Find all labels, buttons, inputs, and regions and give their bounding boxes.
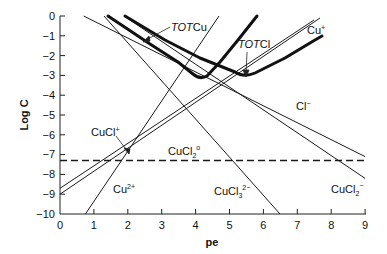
label-cucl2-minus: CuCl2− [331, 182, 363, 197]
label-totcu: TOTCu [171, 21, 207, 33]
annotation-arrows [116, 27, 249, 154]
label-cu-plus: Cu+ [307, 24, 325, 36]
y-tick-label: −7 [42, 148, 55, 160]
x-tick-label: 3 [159, 219, 165, 231]
y-tick-label: −9 [42, 188, 55, 200]
x-tick-label: 0 [57, 219, 63, 231]
y-tick-labels: 0 −1 −2 −3 −4 −5 −6 −7 −8 −9 −10 [36, 10, 55, 220]
y-tick-label: −2 [42, 50, 55, 62]
label-cucl2-neutral: CuCl2o [168, 144, 200, 159]
log-c-pe-chart: 0 −1 −2 −3 −4 −5 −6 −7 −8 −9 −10 0 1 2 3… [0, 0, 387, 254]
y-axis-title: Log C [18, 99, 30, 130]
x-tick-labels: 0 1 2 3 4 5 6 7 8 9 [57, 219, 368, 231]
x-tick-label: 8 [328, 219, 334, 231]
x-tick-label: 2 [125, 219, 131, 231]
x-tick-label: 5 [226, 219, 232, 231]
label-cucl3-2minus: CuCl32− [214, 184, 250, 199]
label-cu-2plus: Cu2+ [113, 183, 135, 195]
line-cu-plus [60, 18, 320, 194]
y-tick-label: 0 [49, 10, 55, 22]
line-cucl-plus [60, 20, 314, 188]
y-tick-label: −5 [42, 109, 55, 121]
y-tick-label: −10 [36, 208, 55, 220]
label-cl-minus: Cl− [296, 100, 310, 112]
total-curves [108, 16, 322, 78]
y-tick-label: −1 [42, 30, 55, 42]
y-tick-label: −6 [42, 129, 55, 141]
label-totcl: TOTCl [238, 38, 270, 50]
x-tick-label: 1 [91, 219, 97, 231]
y-tick-label: −3 [42, 69, 55, 81]
label-cucl-plus: CuCl+ [91, 126, 120, 138]
x-tick-label: 7 [294, 219, 300, 231]
y-tick-label: −4 [42, 89, 55, 101]
x-tick-label: 4 [193, 219, 199, 231]
x-tick-label: 6 [260, 219, 266, 231]
species-lines [60, 16, 365, 214]
x-axis-title: pe [206, 236, 219, 248]
y-tick-label: −8 [42, 168, 55, 180]
x-tick-label: 9 [362, 219, 368, 231]
